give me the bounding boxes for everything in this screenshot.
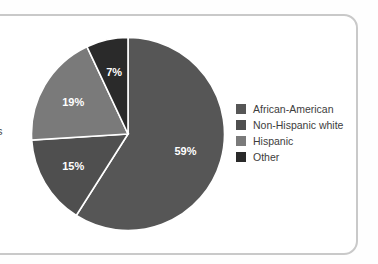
legend-color-swatch-icon [236, 152, 246, 162]
legend-color-swatch-icon [236, 120, 246, 130]
legend-item[interactable]: African-American [236, 101, 356, 117]
pie-chart: 59%15%19%7% [31, 37, 225, 231]
pie-slice-value-label: 59% [174, 145, 196, 157]
chart-legend: African-American Non-Hispanic white Hisp… [236, 101, 356, 165]
clipped-text-fragment: s [0, 125, 3, 138]
pie-slice-group [31, 38, 224, 231]
legend-color-swatch-icon [236, 104, 246, 114]
legend-item[interactable]: Other [236, 149, 356, 165]
chart-page: s 59%15%19%7% African-American Non-Hispa… [0, 0, 378, 264]
pie-slice-value-label: 19% [62, 96, 84, 108]
legend-item-label: Other [253, 151, 279, 163]
legend-item-label: Non-Hispanic white [253, 119, 343, 131]
legend-item[interactable]: Hispanic [236, 133, 356, 149]
legend-item[interactable]: Non-Hispanic white [236, 117, 356, 133]
legend-color-swatch-icon [236, 136, 246, 146]
legend-item-label: African-American [253, 103, 334, 115]
pie-slice-value-label: 15% [62, 160, 84, 172]
pie-chart-svg: 59%15%19%7% [31, 37, 225, 231]
legend-item-label: Hispanic [253, 135, 293, 147]
pie-slice-value-label: 7% [106, 66, 122, 78]
